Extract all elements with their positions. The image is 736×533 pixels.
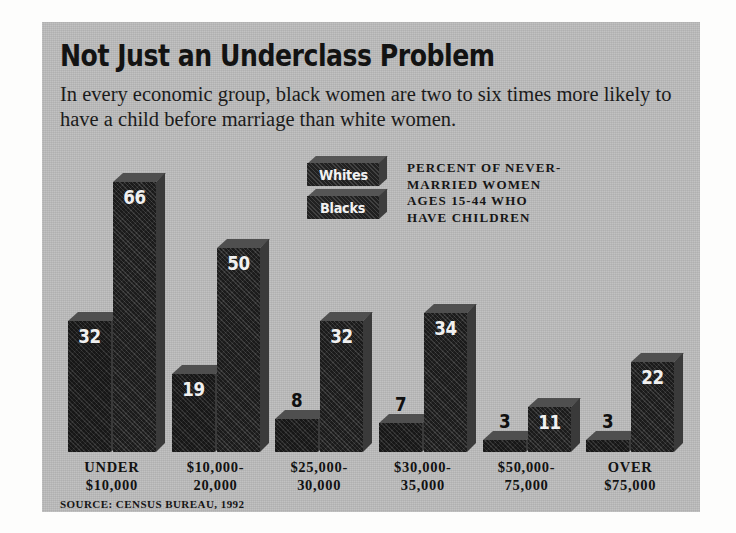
bar-value-label: 32	[323, 325, 361, 347]
bar-blacks: 32	[320, 321, 363, 452]
bar-value-label: 32	[70, 325, 108, 347]
bar-column: 3	[586, 440, 629, 452]
bar-value-label: 8	[278, 389, 316, 411]
bar-group: 1950	[164, 152, 268, 452]
bar-blacks: 50	[217, 248, 260, 452]
bar-whites: 32	[68, 321, 111, 452]
bar-group: 832	[267, 152, 371, 452]
bar-group: 311	[475, 152, 579, 452]
bar-whites: 3	[483, 440, 526, 452]
bar-whites: 8	[275, 419, 318, 452]
bar-column: 8	[275, 419, 318, 452]
plot-area: Whites Blacks PERCENT OF NEVER- MARRIED …	[42, 152, 700, 452]
bar-blacks: 66	[113, 182, 156, 452]
bar-column: 22	[631, 362, 674, 452]
bar-blacks: 22	[631, 362, 674, 452]
x-axis-label: $25,000- 30,000	[267, 458, 371, 494]
bar-value-label: 7	[381, 393, 419, 415]
x-axis-label: OVER $75,000	[578, 458, 682, 494]
x-axis-label: $10,000- 20,000	[164, 458, 268, 494]
bar-groups: 32661950832734311322	[60, 152, 682, 452]
x-axis-labels: UNDER $10,000$10,000- 20,000$25,000- 30,…	[60, 458, 682, 494]
bar-value-label: 19	[174, 378, 212, 400]
bar-value-label: 22	[634, 366, 672, 388]
bar-value-label: 3	[485, 410, 523, 432]
chart-panel: Not Just an Underclass Problem In every …	[42, 22, 700, 512]
x-axis-label: UNDER $10,000	[60, 458, 164, 494]
bar-group: 734	[371, 152, 475, 452]
bar-value-label: 11	[530, 411, 568, 433]
bar-column: 7	[379, 423, 422, 452]
bar-blacks: 34	[424, 313, 467, 452]
x-axis-label: $30,000- 35,000	[371, 458, 475, 494]
legend-label-whites: Whites	[319, 167, 368, 183]
bar-whites: 7	[379, 423, 422, 452]
bar-value-label: 66	[115, 186, 153, 208]
bar-whites: 3	[586, 440, 629, 452]
bar-side-face	[674, 353, 683, 452]
bar-column: 3	[483, 440, 526, 452]
bar-column: 66	[113, 182, 156, 452]
chart-subtitle: In every economic group, black women are…	[60, 82, 700, 132]
bar-column: 11	[528, 407, 571, 452]
source-note: SOURCE: CENSUS BUREAU, 1992	[60, 498, 245, 510]
bar-group: 322	[578, 152, 682, 452]
chart-title: Not Just an Underclass Problem	[60, 38, 495, 73]
bar-value-label: 50	[219, 252, 257, 274]
bar-column: 32	[68, 321, 111, 452]
bar-group: 3266	[60, 152, 164, 452]
bar-value-label: 3	[589, 410, 627, 432]
bar-whites: 19	[172, 374, 215, 452]
bar-value-label: 34	[426, 317, 464, 339]
bar-column: 50	[217, 248, 260, 452]
bar-column: 19	[172, 374, 215, 452]
bar-column: 32	[320, 321, 363, 452]
x-axis-label: $50,000- 75,000	[475, 458, 579, 494]
bar-column: 34	[424, 313, 467, 452]
bar-blacks: 11	[528, 407, 571, 452]
legend-label-blacks: Blacks	[320, 200, 365, 216]
